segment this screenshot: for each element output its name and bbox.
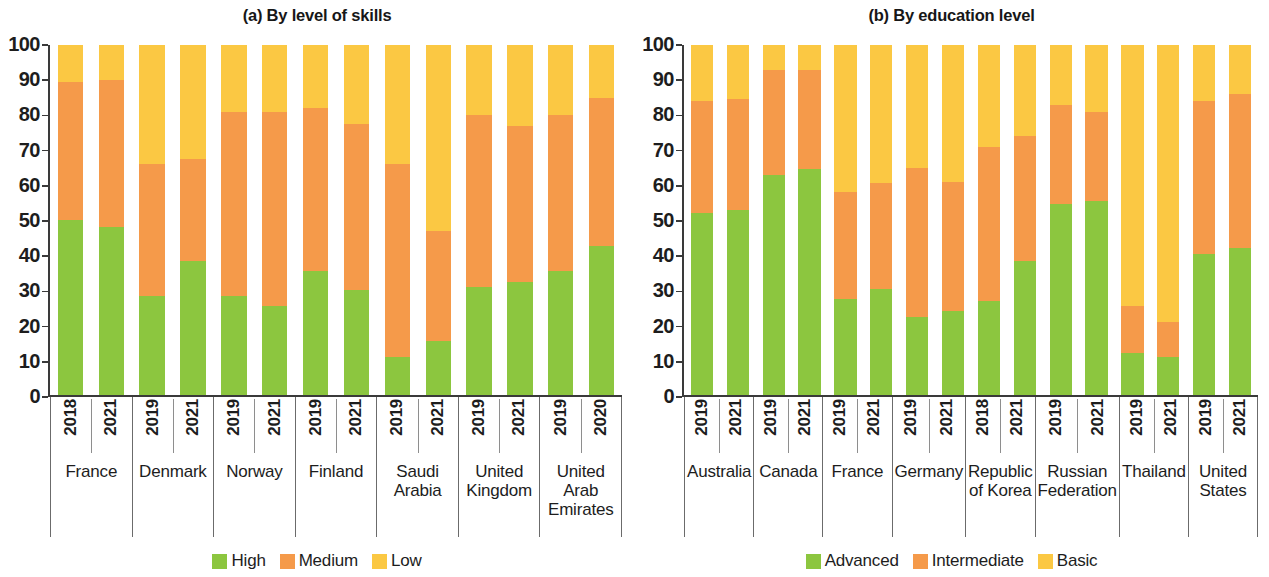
x-axis-group-years: 20192020: [540, 397, 621, 459]
bar-slot: [581, 45, 622, 395]
bar-series-a: [50, 45, 622, 395]
legend-item[interactable]: Basic: [1038, 551, 1098, 571]
x-axis-year-cell: 2021: [91, 397, 131, 459]
y-axis-tick-label: 100: [8, 33, 40, 56]
stacked-bar[interactable]: [548, 45, 573, 395]
stacked-bar[interactable]: [99, 45, 124, 395]
bar-segment-intermediate: [1193, 101, 1215, 253]
stacked-bar[interactable]: [262, 45, 287, 395]
x-axis-year-cell: 2019: [1036, 397, 1078, 459]
x-axis-year-label: 2019: [761, 399, 781, 436]
stacked-bar[interactable]: [180, 45, 205, 395]
bar-segment-intermediate: [1157, 322, 1179, 357]
bar-segment-high: [466, 287, 491, 396]
stacked-bar[interactable]: [303, 45, 328, 395]
y-axis-tick: [42, 396, 48, 398]
bar-segment-low: [385, 45, 410, 164]
bar-segment-medium: [344, 124, 369, 290]
bar-segment-intermediate: [691, 101, 713, 213]
legend-swatch-basic: [1038, 554, 1053, 569]
stacked-bar[interactable]: [798, 45, 820, 395]
stacked-bar[interactable]: [385, 45, 410, 395]
y-axis-tick-label: 10: [653, 350, 674, 373]
y-axis-tick: [676, 361, 682, 363]
bar-segment-intermediate: [1121, 306, 1143, 353]
y-axis-tick: [42, 185, 48, 187]
x-axis-year-cell: 2021: [173, 397, 213, 459]
stacked-bar[interactable]: [906, 45, 928, 395]
y-axis-tick: [676, 150, 682, 152]
legend-item[interactable]: Intermediate: [913, 551, 1024, 571]
y-axis-tick: [676, 79, 682, 81]
x-axis-year-label: 2021: [937, 399, 957, 436]
legend-item[interactable]: Medium: [280, 551, 358, 571]
bar-slot: [213, 45, 254, 395]
legend-label: High: [231, 551, 265, 571]
stacked-bar[interactable]: [942, 45, 964, 395]
y-axis-tick: [676, 291, 682, 293]
stacked-bar[interactable]: [1157, 45, 1179, 395]
stacked-bar[interactable]: [691, 45, 713, 395]
bar-slot: [863, 45, 899, 395]
legend-item[interactable]: High: [212, 551, 265, 571]
stacked-bar[interactable]: [727, 45, 749, 395]
stacked-bar[interactable]: [1193, 45, 1215, 395]
bar-segment-low: [344, 45, 369, 124]
x-axis-group: 20192021Finland: [296, 397, 378, 537]
stacked-bar[interactable]: [870, 45, 892, 395]
stacked-bar[interactable]: [978, 45, 1000, 395]
x-axis-group: 20192021Thailand: [1120, 397, 1189, 537]
legend-item[interactable]: Advanced: [806, 551, 899, 571]
stacked-bar[interactable]: [507, 45, 532, 395]
bar-segment-medium: [548, 115, 573, 271]
y-axis-tick: [42, 255, 48, 257]
stacked-bar[interactable]: [763, 45, 785, 395]
stacked-bar[interactable]: [426, 45, 451, 395]
bar-segment-basic: [906, 45, 928, 168]
x-axis-group: 20192021France: [823, 397, 892, 537]
x-axis-year-cell: 2018: [966, 397, 1000, 459]
x-axis-year-label: 2021: [101, 399, 121, 436]
bar-slot: [792, 45, 828, 395]
x-axis-year-cell: 2019: [459, 397, 499, 459]
stacked-bar[interactable]: [344, 45, 369, 395]
stacked-bar[interactable]: [466, 45, 491, 395]
x-axis-year-cell: 2019: [1189, 397, 1223, 459]
stacked-bar[interactable]: [834, 45, 856, 395]
stacked-bar[interactable]: [1014, 45, 1036, 395]
bar-segment-intermediate: [906, 168, 928, 317]
stacked-bar[interactable]: [139, 45, 164, 395]
y-axis-tick-label: 40: [653, 244, 674, 267]
x-axis-year-label: 2021: [265, 399, 285, 436]
y-axis-tick: [42, 361, 48, 363]
x-axis-year-label: 2021: [864, 399, 884, 436]
stacked-bar[interactable]: [1050, 45, 1072, 395]
x-axis-group: 20192021Germany: [893, 397, 967, 537]
legend-item[interactable]: Low: [372, 551, 422, 571]
legend-swatch-medium: [280, 554, 295, 569]
x-axis-group-years: 20192021: [214, 397, 295, 459]
x-axis-year-label: 2018: [973, 399, 993, 436]
panel-a-title: (a) By level of skills: [0, 6, 634, 25]
bar-slot: [295, 45, 336, 395]
x-axis-year-cell: 2019: [893, 397, 929, 459]
x-axis-year-label: 2019: [692, 399, 712, 436]
bar-segment-basic: [1229, 45, 1251, 94]
stacked-bar[interactable]: [58, 45, 83, 395]
y-axis-tick-label: 20: [19, 315, 40, 338]
x-axis-year-label: 2019: [830, 399, 850, 436]
x-axis-group-years: 20192021: [685, 397, 753, 459]
x-axis-group-label: United Arab Emirates: [540, 459, 621, 537]
stacked-bar[interactable]: [221, 45, 246, 395]
bar-segment-intermediate: [1085, 112, 1107, 201]
stacked-bar[interactable]: [1085, 45, 1107, 395]
stacked-bar[interactable]: [589, 45, 614, 395]
y-axis-tick: [42, 44, 48, 46]
bar-segment-medium: [385, 164, 410, 357]
x-axis-year-cell: 2021: [1154, 397, 1188, 459]
stacked-bar[interactable]: [1229, 45, 1251, 395]
stacked-bar[interactable]: [1121, 45, 1143, 395]
bar-slot: [1007, 45, 1043, 395]
x-axis-year-cell: 2019: [685, 397, 719, 459]
x-axis-year-cell: 2020: [581, 397, 621, 459]
